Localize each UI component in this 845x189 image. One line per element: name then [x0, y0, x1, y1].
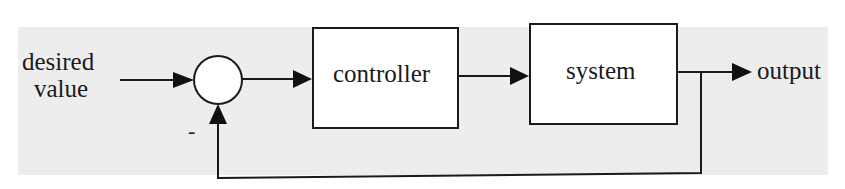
- output-label: output: [757, 57, 821, 85]
- arrowhead-controller: [293, 70, 312, 88]
- block-diagram: [0, 0, 845, 189]
- arrowhead-input: [173, 72, 194, 88]
- system-label: system: [566, 57, 635, 85]
- feedback-sign: -: [188, 117, 195, 145]
- arrowhead-feedback: [209, 104, 227, 124]
- input-label-line1: desired: [22, 48, 94, 76]
- controller-label: controller: [333, 60, 430, 88]
- arrowhead-system: [510, 67, 529, 85]
- input-label-line2: value: [34, 75, 88, 103]
- summing-junction: [194, 56, 242, 104]
- arrowhead-output: [732, 63, 752, 81]
